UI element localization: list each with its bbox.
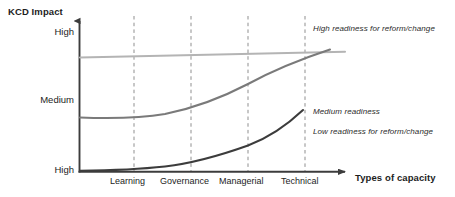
annotation-low-readiness: Low readiness for reform/change: [313, 127, 433, 136]
y-tick-label-high-top: High: [22, 26, 74, 37]
series-line-medium-readiness: [80, 50, 330, 119]
x-tick-label-learning: Learning: [110, 176, 145, 186]
annotation-high-readiness: High readiness for reform/change: [313, 24, 435, 33]
x-tick-label-technical: Technical: [281, 176, 319, 186]
gridlines: [134, 16, 305, 172]
x-tick-label-managerial: Managerial: [219, 176, 264, 186]
annotation-medium-readiness: Medium readiness: [313, 107, 380, 116]
y-tick-label-medium: Medium: [14, 94, 74, 105]
kcd-impact-chart: KCD Impact Types of capacity High Medium…: [0, 0, 455, 197]
y-tick-label-high-bottom: High: [22, 164, 74, 175]
x-axis-title: Types of capacity: [355, 172, 436, 183]
y-axis-title: KCD Impact: [8, 6, 63, 17]
x-tick-label-governance: Governance: [160, 176, 209, 186]
